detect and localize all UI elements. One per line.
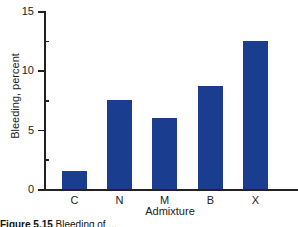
y-tick-minor [44, 159, 49, 161]
bar-C [62, 171, 87, 189]
y-tick-minor [44, 100, 49, 102]
y-tick-major [38, 189, 45, 191]
x-tick-label: C [60, 194, 90, 206]
bar-M [152, 118, 177, 189]
y-tick-major [38, 11, 45, 13]
caption-label: Figure 5.15 [0, 219, 53, 227]
y-tick-label: 0 [14, 184, 34, 195]
figure-caption: Figure 5.15 Bleeding of ... [0, 219, 117, 227]
y-tick-minor [44, 41, 49, 43]
caption-text: Bleeding of ... [56, 219, 117, 227]
bar-X [243, 41, 268, 189]
x-axis-label: Admixture [130, 205, 210, 217]
y-tick-label: 5 [14, 125, 34, 136]
y-tick-label: 10 [14, 65, 34, 76]
bar-chart: Bleeding, percent 051015 CNMBX Admixture… [0, 0, 298, 227]
x-axis [44, 189, 298, 191]
y-tick-major [38, 70, 45, 72]
bar-B [198, 86, 223, 189]
bar-N [107, 100, 132, 189]
x-tick-label: X [241, 194, 271, 206]
y-tick-major [38, 130, 45, 132]
y-tick-label: 15 [14, 6, 34, 17]
